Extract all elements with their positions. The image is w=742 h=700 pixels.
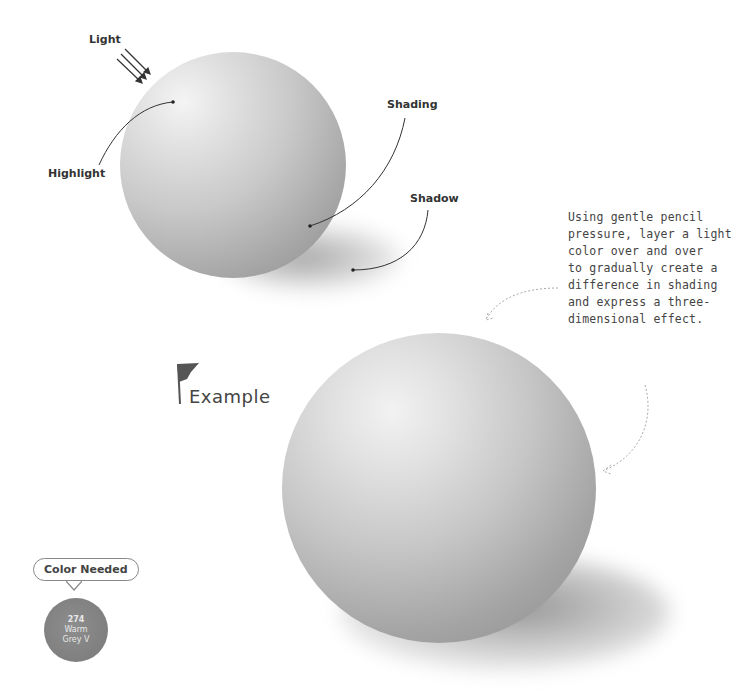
label-shading: Shading (387, 98, 438, 111)
swatch-name-line2: Grey V (63, 635, 90, 645)
label-shadow: Shadow (410, 192, 459, 205)
color-needed-label: Color Needed (33, 558, 139, 581)
bubble-tail (66, 581, 82, 591)
example-heading: Example (189, 386, 271, 407)
label-highlight: Highlight (48, 167, 105, 180)
example-sphere (282, 333, 596, 643)
instruction-note: Using gentle pencil pressure, layer a li… (568, 209, 742, 328)
swatch-name-line1: Warm (64, 625, 87, 635)
swatch-number: 274 (68, 615, 85, 625)
color-swatch: 274 Warm Grey V (44, 598, 108, 662)
